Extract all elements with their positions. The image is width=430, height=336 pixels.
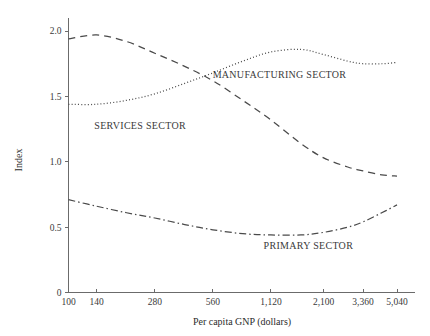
x-tick-label: 280 [148, 297, 163, 307]
y-tick-label: 0.5 [50, 223, 62, 233]
curve-services-sector [69, 35, 398, 176]
series-annotations: MANUFACTURING SECTORSERVICES SECTORPRIMA… [94, 69, 353, 251]
y-tick-label: 1.5 [50, 92, 62, 102]
axes-group [69, 18, 416, 293]
x-tick-label: 3,360 [352, 297, 374, 307]
curve-primary-sector [69, 200, 398, 236]
line-chart: 00.51.01.52.0 1001402805601,1202,1003,36… [0, 0, 430, 336]
series-label-services-sector: SERVICES SECTOR [94, 120, 186, 131]
x-tick-label: 560 [206, 297, 221, 307]
chart-container: 00.51.01.52.0 1001402805601,1202,1003,36… [0, 0, 430, 336]
series-curves [69, 35, 398, 235]
x-tick-label: 100 [61, 297, 76, 307]
y-tick-label: 2.0 [50, 26, 62, 36]
x-axis-title: Per capita GNP (dollars) [193, 316, 291, 328]
series-label-primary-sector: PRIMARY SECTOR [264, 240, 354, 251]
x-tick-label: 140 [90, 297, 105, 307]
y-tick-label: 1.0 [50, 157, 62, 167]
y-axis-ticks: 00.51.01.52.0 [50, 26, 69, 297]
x-tick-label: 5,040 [386, 297, 408, 307]
series-label-manufacturing-sector: MANUFACTURING SECTOR [213, 69, 347, 80]
x-tick-label: 1,120 [260, 297, 282, 307]
x-tick-label: 2,100 [313, 297, 335, 307]
y-axis-title: Index [13, 149, 24, 172]
x-axis-ticks: 1001402805601,1202,1003,3605,040 [61, 289, 408, 307]
